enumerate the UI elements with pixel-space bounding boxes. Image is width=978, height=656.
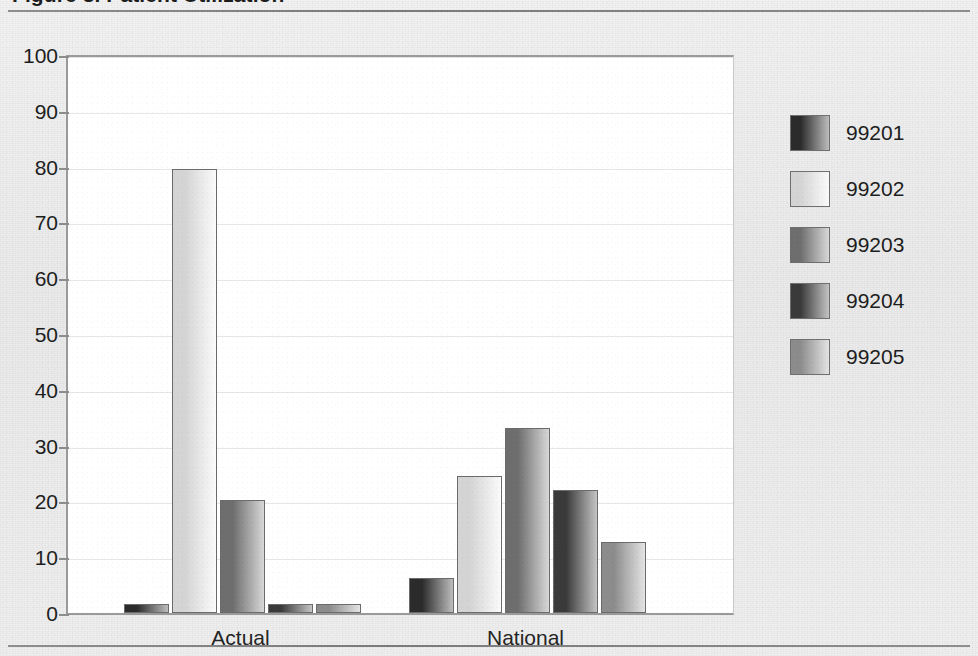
legend-item-99203: 99203 bbox=[790, 217, 965, 273]
gridline bbox=[68, 392, 733, 393]
y-axis-tick-label: 80 bbox=[35, 157, 58, 178]
legend-swatch-99202 bbox=[790, 171, 830, 207]
legend-item-99205: 99205 bbox=[790, 329, 965, 385]
y-axis-tick-label: 10 bbox=[35, 547, 58, 568]
y-axis-tick-label: 0 bbox=[46, 603, 58, 624]
y-axis-tick bbox=[59, 391, 69, 393]
y-axis-tick-label: 20 bbox=[35, 491, 58, 512]
gridline bbox=[68, 503, 733, 504]
legend-swatch-99204 bbox=[790, 283, 830, 319]
bar-99204-actual bbox=[268, 604, 313, 613]
y-axis-tick-label: 60 bbox=[35, 268, 58, 289]
y-axis-tick bbox=[59, 168, 69, 170]
bar-99203-actual bbox=[220, 500, 265, 613]
y-axis-tick bbox=[59, 614, 69, 616]
y-axis-tick bbox=[59, 447, 69, 449]
y-axis-tick-label: 40 bbox=[35, 380, 58, 401]
horizontal-rule-top bbox=[8, 10, 970, 12]
bar-99202-actual bbox=[172, 169, 217, 613]
y-axis-tick-labels: 0102030405060708090100 bbox=[8, 55, 58, 615]
y-axis-tick bbox=[59, 112, 69, 114]
legend-swatch-99205 bbox=[790, 339, 830, 375]
y-axis-tick-label: 50 bbox=[35, 324, 58, 345]
bar-99205-actual bbox=[316, 604, 361, 613]
legend-item-99202: 99202 bbox=[790, 161, 965, 217]
bar-99202-national bbox=[457, 476, 502, 613]
legend-label: 99201 bbox=[846, 121, 904, 145]
y-axis-tick bbox=[59, 279, 69, 281]
gridline bbox=[68, 57, 733, 58]
bar-99201-national bbox=[409, 578, 454, 613]
bar-99203-national bbox=[505, 428, 550, 613]
legend-label: 99205 bbox=[846, 345, 904, 369]
y-axis-tick-label: 30 bbox=[35, 436, 58, 457]
legend-swatch-99203 bbox=[790, 227, 830, 263]
legend-item-99204: 99204 bbox=[790, 273, 965, 329]
y-axis-tick-label: 90 bbox=[35, 101, 58, 122]
legend-item-99201: 99201 bbox=[790, 105, 965, 161]
y-axis-tick bbox=[59, 558, 69, 560]
legend-swatch-99201 bbox=[790, 115, 830, 151]
horizontal-rule-bottom bbox=[8, 645, 970, 647]
plot-area bbox=[66, 55, 734, 615]
y-axis-tick bbox=[59, 56, 69, 58]
legend-label: 99202 bbox=[846, 177, 904, 201]
gridline bbox=[68, 224, 733, 225]
figure-page: Figure 3. Patient Utilization 0102030405… bbox=[0, 0, 978, 656]
y-axis-tick-label: 100 bbox=[23, 45, 58, 66]
gridline bbox=[68, 113, 733, 114]
gridline bbox=[68, 280, 733, 281]
gridline bbox=[68, 336, 733, 337]
bar-99204-national bbox=[553, 490, 598, 613]
gridline bbox=[68, 169, 733, 170]
chart-canvas: 0102030405060708090100 ActualNational 99… bbox=[8, 13, 970, 643]
y-axis-tick-label: 70 bbox=[35, 212, 58, 233]
chart-legend: 9920199202992039920499205 bbox=[790, 105, 965, 385]
y-axis-tick bbox=[59, 335, 69, 337]
y-axis-tick bbox=[59, 502, 69, 504]
bar-99205-national bbox=[601, 542, 646, 613]
legend-label: 99203 bbox=[846, 233, 904, 257]
bar-99201-actual bbox=[124, 604, 169, 613]
figure-caption-strip: Figure 3. Patient Utilization bbox=[0, 0, 978, 9]
y-axis-tick bbox=[59, 223, 69, 225]
gridline bbox=[68, 448, 733, 449]
figure-caption: Figure 3. Patient Utilization bbox=[12, 0, 284, 7]
legend-label: 99204 bbox=[846, 289, 904, 313]
